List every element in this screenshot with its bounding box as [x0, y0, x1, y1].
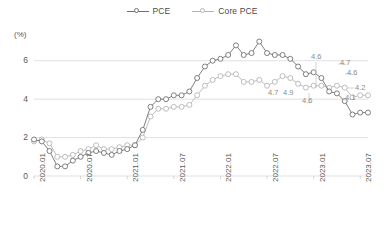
- data-point-marker: [55, 164, 60, 169]
- data-label: 4.9: [283, 88, 293, 97]
- series-core-pce: [32, 72, 371, 160]
- data-point-marker: [47, 141, 52, 146]
- data-point-marker: [140, 127, 145, 132]
- data-point-marker: [78, 149, 83, 154]
- data-label: 4.6: [347, 68, 357, 77]
- data-point-marker: [63, 154, 68, 159]
- data-point-marker: [101, 150, 106, 155]
- data-point-marker: [70, 152, 75, 157]
- data-point-marker: [272, 79, 277, 84]
- data-point-marker: [156, 97, 161, 102]
- data-point-marker: [241, 79, 246, 84]
- x-axis-tick-label: 2023.07: [364, 153, 373, 182]
- x-axis-tick-label: 2021.01: [131, 153, 140, 182]
- data-point-marker: [226, 52, 231, 57]
- data-label: 4.2: [355, 83, 365, 92]
- data-label: 4.1: [345, 93, 355, 102]
- data-label: 4.6: [311, 52, 321, 61]
- data-point-marker: [241, 52, 246, 57]
- data-point-marker: [94, 143, 99, 148]
- data-point-marker: [195, 93, 200, 98]
- data-label: 4.7: [340, 58, 350, 67]
- data-point-marker: [265, 51, 270, 56]
- data-point-marker: [195, 76, 200, 81]
- y-axis-tick-label: 0: [6, 171, 28, 181]
- data-point-marker: [109, 152, 114, 157]
- data-point-marker: [148, 114, 153, 119]
- data-label: 4.6: [302, 96, 312, 105]
- data-point-marker: [366, 93, 371, 98]
- series-line: [34, 74, 368, 157]
- data-point-marker: [249, 51, 254, 56]
- data-point-marker: [117, 149, 122, 154]
- data-point-marker: [233, 72, 238, 77]
- y-axis-tick-label: 6: [6, 55, 28, 65]
- data-point-marker: [132, 143, 137, 148]
- plot-area: [0, 0, 384, 229]
- data-point-marker: [171, 93, 176, 98]
- data-point-marker: [342, 85, 347, 90]
- data-point-marker: [334, 91, 339, 96]
- data-point-marker: [210, 58, 215, 63]
- data-point-marker: [109, 147, 114, 152]
- data-point-marker: [296, 81, 301, 86]
- y-axis-tick-label: 4: [6, 94, 28, 104]
- data-point-marker: [280, 74, 285, 79]
- y-axis-tick-label: 2: [6, 132, 28, 142]
- data-point-marker: [272, 52, 277, 57]
- data-point-marker: [296, 64, 301, 69]
- data-point-marker: [257, 77, 262, 82]
- data-point-marker: [202, 83, 207, 88]
- data-point-marker: [164, 106, 169, 111]
- data-point-marker: [179, 104, 184, 109]
- data-point-marker: [249, 79, 254, 84]
- data-point-marker: [288, 56, 293, 61]
- data-point-marker: [303, 72, 308, 77]
- data-label: 4.7: [268, 88, 278, 97]
- data-point-marker: [164, 97, 169, 102]
- data-point-marker: [288, 76, 293, 81]
- data-point-marker: [78, 154, 83, 159]
- data-point-marker: [218, 56, 223, 61]
- x-axis-tick-label: 2021.07: [178, 153, 187, 182]
- data-point-marker: [70, 158, 75, 163]
- data-point-marker: [140, 135, 145, 140]
- data-point-marker: [226, 72, 231, 77]
- x-axis-tick-label: 2022.01: [224, 153, 233, 182]
- x-axis-tick-label: 2022.07: [271, 153, 280, 182]
- data-point-marker: [55, 154, 60, 159]
- x-axis-tick-label: 2020.01: [38, 153, 47, 182]
- data-point-marker: [280, 52, 285, 57]
- data-point-marker: [319, 76, 324, 81]
- data-point-marker: [366, 110, 371, 115]
- data-point-marker: [257, 39, 262, 44]
- data-point-marker: [311, 70, 316, 75]
- data-point-marker: [202, 64, 207, 69]
- x-axis-tick-label: 2020.07: [85, 153, 94, 182]
- data-point-marker: [358, 110, 363, 115]
- data-point-marker: [311, 83, 316, 88]
- data-point-marker: [187, 102, 192, 107]
- data-point-marker: [218, 74, 223, 79]
- data-point-marker: [63, 164, 68, 169]
- data-point-marker: [171, 104, 176, 109]
- data-point-marker: [94, 149, 99, 154]
- data-point-marker: [125, 147, 130, 152]
- pce-inflation-line-chart: PCE Core PCE (%) 6420 2020.012020.072021…: [0, 0, 384, 229]
- data-point-marker: [303, 85, 308, 90]
- data-point-marker: [156, 106, 161, 111]
- data-point-marker: [233, 43, 238, 48]
- data-point-marker: [210, 77, 215, 82]
- data-point-marker: [350, 112, 355, 117]
- data-point-marker: [179, 93, 184, 98]
- x-axis-tick-label: 2023.01: [318, 153, 327, 182]
- data-point-marker: [327, 89, 332, 94]
- data-point-marker: [47, 149, 52, 154]
- data-point-marker: [334, 83, 339, 88]
- data-point-marker: [187, 89, 192, 94]
- data-point-marker: [39, 139, 44, 144]
- data-point-marker: [148, 104, 153, 109]
- data-point-marker: [32, 137, 37, 142]
- data-point-marker: [319, 83, 324, 88]
- data-point-marker: [358, 93, 363, 98]
